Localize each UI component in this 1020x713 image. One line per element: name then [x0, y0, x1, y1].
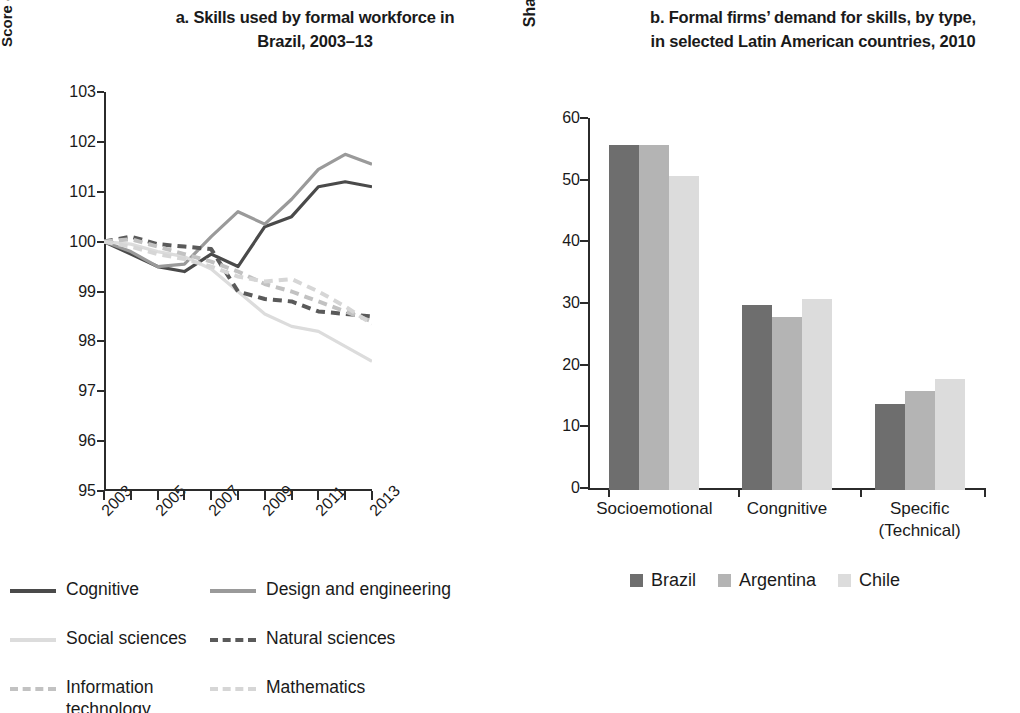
panel-a-legend-item-cognitive: Cognitive — [10, 578, 210, 601]
panel-a-x-tickmark — [264, 491, 266, 500]
panel-b-y-tick-20: 20 — [538, 356, 580, 374]
legend-line-swatch — [10, 687, 56, 691]
panel-a-y-tick-96: 96 — [52, 432, 96, 450]
panel-a-x-tickmark — [291, 491, 293, 500]
legend-line-swatch — [10, 638, 56, 642]
bar-group-congnitive — [742, 118, 832, 490]
panel-a-y-tick-100: 100 — [52, 233, 96, 251]
panel-b-y-tick-0: 0 — [538, 479, 580, 497]
panel-a-legend: CognitiveDesign and engineeringSocial sc… — [10, 578, 490, 713]
legend-line-swatch — [210, 589, 256, 593]
bar-chile-congnitive — [802, 299, 832, 490]
legend-label: Social sciences — [66, 627, 187, 650]
panel-b-bars-area — [588, 118, 986, 490]
panel-b-y-tickmark — [580, 425, 588, 427]
bar-chile-socioemotional — [669, 176, 699, 491]
panel-a-plot-area — [104, 92, 372, 491]
bar-group-specific-technical — [875, 118, 965, 490]
panel-b-plot-area — [588, 118, 986, 490]
panel-a-y-tick-97: 97 — [52, 382, 96, 400]
legend-color-swatch — [838, 574, 851, 587]
category-label-line: Specific — [825, 498, 1015, 520]
legend-line-swatch — [210, 687, 256, 691]
legend-line-swatch — [210, 638, 256, 642]
panel-b-y-tickmark — [580, 364, 588, 366]
panel-a-y-tickmark — [97, 390, 104, 392]
panel-b-y-tick-10: 10 — [538, 417, 580, 435]
panel-a-series-svg — [104, 92, 372, 491]
panel-a-y-tickmark — [97, 141, 104, 143]
legend-color-swatch — [630, 574, 643, 587]
panel-b-y-tickmark — [580, 117, 588, 119]
panel-b-y-tick-60: 60 — [538, 109, 580, 127]
panel-b-legend-item-argentina: Argentina — [718, 570, 816, 591]
panel-a-y-axis-title-line2: sector (index, 2003 = 100) — [18, 0, 40, 96]
panel-a-x-tickmark — [103, 491, 105, 500]
bar-argentina-socioemotional — [639, 145, 669, 490]
bar-chile-specific-technical — [935, 379, 965, 490]
panel-a-y-tick-103: 103 — [52, 83, 96, 101]
bar-brazil-specific-technical — [875, 404, 905, 490]
panel-a-series-information-technology — [104, 239, 372, 321]
panel-b-y-tickmark — [580, 179, 588, 181]
panel-b-bar-chart: b. Formal firms’ demand for skills, by t… — [510, 0, 1020, 713]
bar-brazil-congnitive — [742, 305, 772, 490]
panel-a-y-tickmark — [97, 91, 104, 93]
legend-line-swatch — [10, 589, 56, 593]
panel-a-legend-item-mathematics: Mathematics — [210, 676, 470, 713]
figure-container: a. Skills used by formal workforce in Br… — [0, 0, 1020, 713]
panel-a-y-tick-101: 101 — [52, 183, 96, 201]
panel-b-y-tick-50: 50 — [538, 171, 580, 189]
legend-label: Brazil — [651, 570, 696, 591]
bar-brazil-socioemotional — [609, 145, 639, 490]
legend-label: Mathematics — [266, 676, 365, 699]
legend-label: Information technology — [66, 676, 210, 713]
panel-b-title: b. Formal firms’ demand for skills, by t… — [510, 6, 1020, 54]
bar-argentina-congnitive — [772, 317, 802, 490]
panel-a-x-tickmark — [130, 491, 132, 500]
legend-color-swatch — [718, 574, 731, 587]
panel-a-x-tickmark — [157, 491, 159, 500]
legend-label: Argentina — [739, 570, 816, 591]
panel-b-y-tick-30: 30 — [538, 294, 580, 312]
legend-label: Design and engineering — [266, 578, 451, 601]
panel-a-x-tickmark — [210, 491, 212, 500]
panel-b-y-tickmark — [580, 240, 588, 242]
panel-a-legend-item-design-and-engineering: Design and engineering — [210, 578, 470, 601]
panel-a-legend-item-natural-sciences: Natural sciences — [210, 627, 470, 650]
panel-b-y-tickmark — [580, 487, 588, 489]
panel-a-y-tick-99: 99 — [52, 283, 96, 301]
category-label-line: (Technical) — [825, 520, 1015, 542]
panel-a-title-line1: a. Skills used by formal workforce in — [60, 6, 570, 30]
legend-label: Cognitive — [66, 578, 139, 601]
panel-a-legend-item-information-technology: Information technology — [10, 676, 210, 713]
panel-a-y-tickmark — [97, 291, 104, 293]
panel-b-category-label-specific-technical: Specific(Technical) — [825, 498, 1015, 542]
panel-b-title-line1: b. Formal firms’ demand for skills, by t… — [558, 6, 1020, 30]
panel-a-series-design-and-engineering — [104, 154, 372, 266]
panel-a-y-tick-95: 95 — [52, 482, 96, 500]
panel-a-x-tickmark — [371, 491, 373, 500]
legend-label: Chile — [859, 570, 900, 591]
panel-b-y-axis-title: Share of formal firms (%) — [518, 0, 541, 118]
panel-a-y-tick-102: 102 — [52, 133, 96, 151]
panel-b-y-tickmark — [580, 302, 588, 304]
panel-b-y-tick-40: 40 — [538, 232, 580, 250]
panel-a-x-tickmark — [317, 491, 319, 500]
panel-b-title-line2: in selected Latin American countries, 20… — [558, 30, 1020, 54]
panel-b-legend-item-brazil: Brazil — [630, 570, 696, 591]
panel-a-title-line2: Brazil, 2003–13 — [60, 30, 570, 54]
bar-group-socioemotional — [609, 118, 699, 490]
panel-b-legend: BrazilArgentinaChile — [510, 570, 1020, 591]
panel-a-legend-item-social-sciences: Social sciences — [10, 627, 210, 650]
panel-a-y-tickmark — [97, 241, 104, 243]
panel-b-legend-item-chile: Chile — [838, 570, 900, 591]
bar-argentina-specific-technical — [905, 391, 935, 490]
panel-a-y-tickmark — [97, 191, 104, 193]
panel-a-y-tickmark — [97, 440, 104, 442]
panel-a-x-tickmark — [237, 491, 239, 500]
panel-a-y-tick-98: 98 — [52, 332, 96, 350]
panel-a-line-chart: a. Skills used by formal workforce in Br… — [0, 0, 510, 713]
panel-a-x-tickmark — [183, 491, 185, 500]
panel-a-x-tickmark — [344, 491, 346, 500]
